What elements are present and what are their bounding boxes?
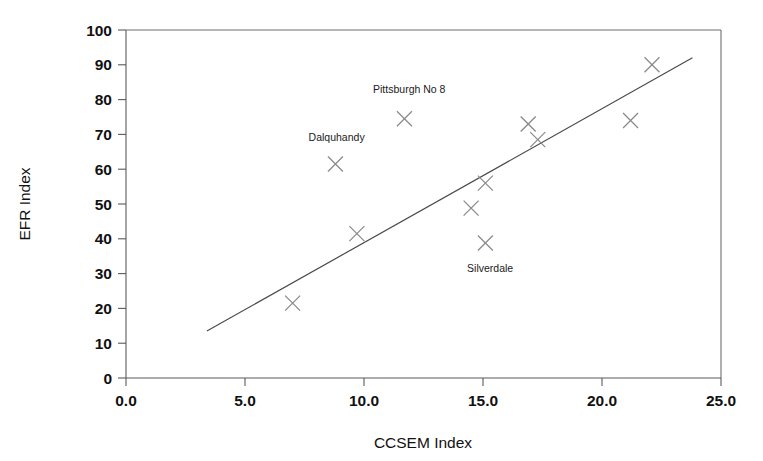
y-tick-label-80: 80 (95, 91, 112, 108)
x-tick-label-20.0: 20.0 (587, 392, 617, 409)
x-tick-label-0.0: 0.0 (115, 392, 137, 409)
y-tick-label-90: 90 (95, 56, 112, 73)
x-tick-label-15.0: 15.0 (468, 392, 498, 409)
annotation-dalquhandy: Dalquhandy (309, 131, 366, 143)
y-tick-label-100: 100 (86, 22, 112, 39)
y-tick-label-20: 20 (95, 300, 112, 317)
y-tick-label-50: 50 (95, 196, 112, 213)
y-tick-label-60: 60 (95, 161, 112, 178)
y-tick-label-40: 40 (95, 230, 112, 247)
x-tick-label-10.0: 10.0 (349, 392, 379, 409)
annotation-silverdale: Silverdale (467, 262, 513, 274)
x-tick-label-25.0: 25.0 (706, 392, 736, 409)
y-tick-label-10: 10 (95, 335, 112, 352)
y-tick-label-70: 70 (95, 126, 112, 143)
y-tick-label-0: 0 (103, 370, 112, 387)
chart-canvas: 0102030405060708090100 0.05.010.015.020.… (0, 0, 763, 461)
scatter-chart-figure: 0102030405060708090100 0.05.010.015.020.… (0, 0, 763, 461)
y-tick-label-30: 30 (95, 265, 112, 282)
x-tick-label-5.0: 5.0 (234, 392, 256, 409)
annotation-pittsburgh-no-8: Pittsburgh No 8 (373, 83, 446, 95)
x-axis-title: CCSEM Index (374, 434, 472, 451)
y-axis-title: EFR Index (16, 167, 33, 240)
